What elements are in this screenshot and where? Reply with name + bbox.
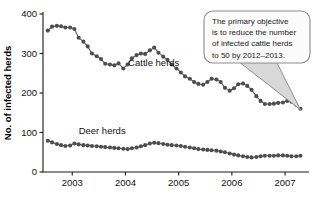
- data-point: [254, 94, 258, 98]
- data-point: [268, 102, 272, 106]
- data-point: [152, 46, 156, 50]
- data-point: [143, 52, 147, 56]
- data-point: [236, 153, 240, 157]
- data-point: [90, 144, 94, 148]
- data-point: [148, 142, 152, 146]
- data-point: [81, 143, 85, 147]
- data-point: [112, 146, 116, 150]
- data-point: [55, 142, 59, 146]
- data-point: [192, 146, 196, 150]
- x-tick-label: 2005: [168, 177, 189, 188]
- data-point: [272, 154, 276, 158]
- data-point: [135, 145, 139, 149]
- data-point: [143, 143, 147, 147]
- data-point: [223, 150, 227, 154]
- data-point: [126, 147, 130, 151]
- y-tick-label: 0: [32, 166, 37, 177]
- data-point: [148, 48, 152, 52]
- data-point: [170, 143, 174, 147]
- x-tick-label: 2003: [62, 177, 83, 188]
- data-point: [245, 155, 249, 159]
- data-point: [59, 24, 63, 28]
- data-point: [298, 154, 302, 158]
- data-point: [156, 51, 160, 55]
- data-point: [55, 24, 59, 28]
- series-line: [48, 141, 301, 158]
- data-point: [86, 143, 90, 147]
- data-point: [241, 154, 245, 158]
- data-point: [228, 151, 232, 155]
- data-point: [272, 102, 276, 106]
- data-point: [63, 144, 67, 148]
- series-deer-herds: [46, 139, 303, 160]
- data-point: [259, 154, 263, 158]
- callout-text-line: The primary objective: [212, 17, 289, 26]
- series-label-cattle-herds: Cattle herds: [128, 57, 179, 68]
- data-point: [232, 153, 236, 157]
- data-point: [192, 80, 196, 84]
- data-point: [121, 147, 125, 151]
- data-point: [210, 77, 214, 81]
- data-point: [156, 141, 160, 145]
- data-point: [196, 147, 200, 151]
- data-point: [268, 154, 272, 158]
- y-tick-label: 100: [21, 127, 37, 138]
- x-tick-label: 2006: [221, 177, 242, 188]
- data-point: [108, 63, 112, 67]
- y-tick-label: 200: [21, 87, 37, 98]
- data-point: [161, 142, 165, 146]
- data-point: [223, 86, 227, 90]
- data-point: [281, 153, 285, 157]
- callout-text-line: is to reduce the number: [212, 28, 296, 37]
- data-point: [259, 99, 263, 103]
- data-point: [72, 142, 76, 146]
- data-point: [77, 36, 81, 40]
- data-point: [276, 101, 280, 105]
- data-point: [86, 44, 90, 48]
- data-point: [228, 89, 232, 93]
- data-point: [188, 145, 192, 149]
- data-point: [90, 51, 94, 55]
- data-point: [210, 148, 214, 152]
- data-point: [174, 143, 178, 147]
- data-point: [201, 83, 205, 87]
- data-point: [214, 149, 218, 153]
- data-point: [99, 145, 103, 149]
- data-point: [95, 54, 99, 58]
- data-point: [249, 155, 253, 159]
- data-point: [294, 154, 298, 158]
- y-axis-label-text: No. of infected herds: [2, 46, 13, 140]
- data-point: [50, 140, 54, 144]
- data-point: [183, 145, 187, 149]
- data-point: [179, 70, 183, 74]
- data-point: [46, 29, 50, 33]
- data-point: [72, 27, 76, 31]
- infected-herds-line-chart: 0100200300400 20032004200520062007 No. o…: [0, 0, 317, 200]
- data-point: [214, 78, 218, 82]
- data-point: [205, 148, 209, 152]
- data-point: [263, 102, 267, 106]
- data-point: [112, 63, 116, 67]
- y-tick-label: 300: [21, 48, 37, 59]
- data-point: [245, 84, 249, 88]
- data-point: [139, 144, 143, 148]
- data-point: [285, 154, 289, 158]
- data-point: [103, 62, 107, 66]
- y-axis-tick-labels: 0100200300400: [21, 8, 37, 177]
- y-axis-title: No. of infected herds: [2, 46, 13, 140]
- data-point: [219, 80, 223, 84]
- data-point: [68, 25, 72, 29]
- callout-text-line: to 50 by 2012–2013.: [212, 51, 285, 60]
- data-point: [59, 143, 63, 147]
- series-inline-labels: Cattle herdsDeer herds: [79, 57, 180, 136]
- data-point: [183, 74, 187, 78]
- data-point: [103, 145, 107, 149]
- data-point: [201, 147, 205, 151]
- data-point: [121, 66, 125, 70]
- data-point: [46, 139, 50, 143]
- data-point: [219, 149, 223, 153]
- data-point: [130, 146, 134, 150]
- data-point: [152, 141, 156, 145]
- data-point: [188, 77, 192, 81]
- data-point: [63, 25, 67, 29]
